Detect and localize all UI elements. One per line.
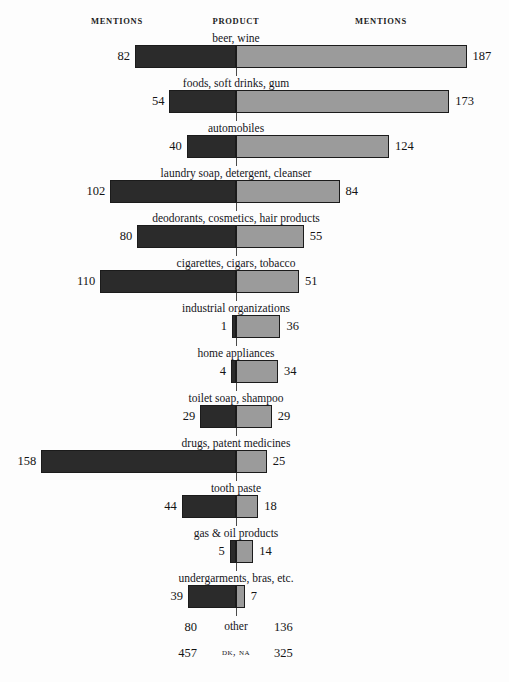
value-left: 82: [117, 45, 130, 68]
bar-left: [200, 405, 236, 428]
bar-right: [236, 180, 340, 203]
value-left: 4: [220, 360, 226, 383]
center-axis-tick: [236, 608, 237, 616]
center-axis-tick: [236, 158, 237, 166]
bar-area: [0, 225, 509, 248]
chart-row: tooth paste4418: [0, 481, 509, 526]
row-label: industrial organizations: [182, 301, 290, 315]
bar-left: [135, 45, 236, 68]
bar-area: [0, 180, 509, 203]
center-axis-tick: [236, 203, 237, 211]
bar-right: [236, 315, 280, 338]
bar-left: [182, 495, 236, 518]
value-left: 102: [86, 180, 105, 203]
value-left: 5: [219, 540, 225, 563]
center-axis-tick: [236, 113, 237, 121]
value-left: 110: [77, 270, 95, 293]
row-label: cigarettes, cigars, tobacco: [177, 256, 296, 270]
value-right: 36: [286, 315, 299, 338]
chart-row: beer, wine82187: [0, 31, 509, 76]
row-label: drugs, patent medicines: [182, 436, 291, 450]
bar-area: [0, 135, 509, 158]
header-mentions-right: MENTIONS: [355, 16, 407, 26]
bar-left: [137, 225, 236, 248]
bar-area: [0, 90, 509, 113]
header-mentions-left: MENTIONS: [91, 16, 143, 26]
bar-left: [187, 135, 236, 158]
center-axis-tick: [236, 563, 237, 571]
bar-right: [236, 270, 299, 293]
center-axis-tick: [236, 248, 237, 256]
bar-area: [0, 360, 509, 383]
value-left: 29: [183, 405, 196, 428]
value-left: 54: [152, 90, 165, 113]
row-label: tooth paste: [211, 481, 261, 495]
row-label: foods, soft drinks, gum: [183, 76, 289, 90]
chart-row: toilet soap, shampoo2929: [0, 391, 509, 436]
bar-area: [0, 540, 509, 563]
center-axis-tick: [236, 68, 237, 76]
chart-rows: beer, wine82187foods, soft drinks, gum54…: [0, 31, 509, 668]
value-right: 51: [305, 270, 318, 293]
chart-header: MENTIONS PRODUCT MENTIONS: [0, 0, 509, 30]
row-label: toilet soap, shampoo: [189, 391, 284, 405]
bar-area: [0, 450, 509, 473]
value-right: 84: [346, 180, 359, 203]
value-right: 55: [310, 225, 323, 248]
footer-row-other: 80other136: [0, 616, 509, 642]
chart-row: gas & oil products514: [0, 526, 509, 571]
row-label: deodorants, cosmetics, hair products: [152, 211, 320, 225]
row-label: automobiles: [208, 121, 264, 135]
bar-right: [236, 540, 253, 563]
bar-right: [236, 405, 272, 428]
value-right: 187: [473, 45, 492, 68]
value-left: 158: [17, 450, 36, 473]
bar-right: [236, 360, 278, 383]
value-left: 39: [170, 585, 183, 608]
center-axis-tick: [236, 383, 237, 391]
bar-right: [236, 495, 258, 518]
center-axis-tick: [236, 293, 237, 301]
bar-left: [100, 270, 236, 293]
value-right: 25: [273, 450, 286, 473]
value-right: 7: [251, 585, 257, 608]
center-axis-tick: [236, 338, 237, 346]
value-right: 18: [264, 495, 277, 518]
value-right: 14: [259, 540, 272, 563]
chart-row: foods, soft drinks, gum54173: [0, 76, 509, 121]
bar-right: [236, 135, 389, 158]
bar-left: [110, 180, 236, 203]
value-left: 80: [120, 225, 133, 248]
footer-label: other: [224, 620, 248, 632]
footer-label: DK, NA: [222, 646, 250, 657]
row-label: beer, wine: [212, 31, 259, 45]
bar-area: [0, 405, 509, 428]
value-left: 44: [164, 495, 177, 518]
value-right: 124: [395, 135, 414, 158]
center-axis-tick: [236, 473, 237, 481]
footer-value-right: 136: [274, 620, 293, 635]
bar-right: [236, 90, 449, 113]
bar-left: [188, 585, 236, 608]
row-label: gas & oil products: [194, 526, 279, 540]
chart-row: drugs, patent medicines15825: [0, 436, 509, 481]
chart-row: deodorants, cosmetics, hair products8055: [0, 211, 509, 256]
chart-row: industrial organizations136: [0, 301, 509, 346]
value-right: 34: [284, 360, 297, 383]
chart-row: cigarettes, cigars, tobacco11051: [0, 256, 509, 301]
chart-row: home appliances434: [0, 346, 509, 391]
bar-right: [236, 585, 245, 608]
bar-left: [169, 90, 236, 113]
value-left: 40: [169, 135, 182, 158]
bar-area: [0, 315, 509, 338]
footer-value-left: 80: [185, 620, 198, 635]
value-left: 1: [221, 315, 227, 338]
bar-right: [236, 450, 267, 473]
footer-value-left: 457: [178, 646, 197, 661]
footer-row-dk-na: 457DK, NA325: [0, 642, 509, 668]
chart-row: automobiles40124: [0, 121, 509, 166]
footer-value-right: 325: [274, 646, 293, 661]
chart-row: undergarments, bras, etc.397: [0, 571, 509, 616]
center-axis-tick: [236, 518, 237, 526]
diverging-bar-chart: MENTIONS PRODUCT MENTIONS beer, wine8218…: [0, 0, 509, 682]
